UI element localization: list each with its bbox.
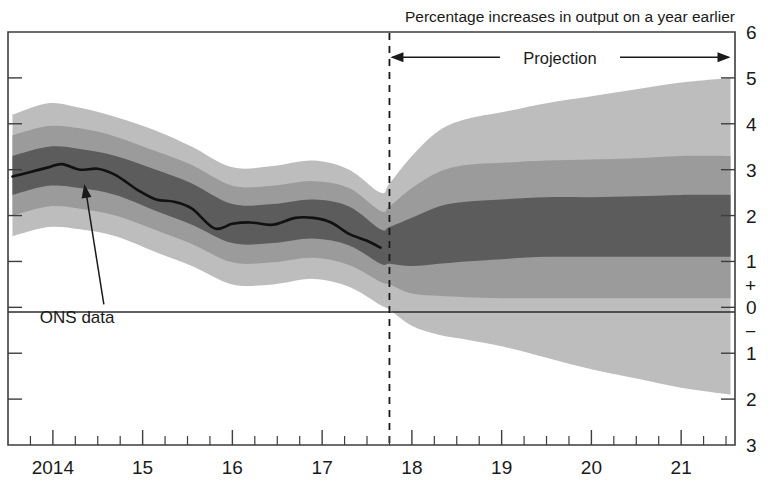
y-axis-label-6: 6 xyxy=(746,22,757,43)
chart-title: Percentage increases in output on a year… xyxy=(405,8,735,25)
y-axis-label-5: 5 xyxy=(746,68,757,89)
x-axis-tick-labels: 201415161718192021 xyxy=(32,457,692,478)
x-axis-label-17: 17 xyxy=(312,457,333,478)
fan-chart-container: Percentage increases in output on a year… xyxy=(0,0,778,483)
positive-sign-label: + xyxy=(745,275,756,296)
x-axis-label-18: 18 xyxy=(401,457,422,478)
x-axis-label-21: 21 xyxy=(671,457,692,478)
y-axis-label-0: 0 xyxy=(746,297,757,318)
y-axis-label-4: 4 xyxy=(746,114,757,135)
x-axis-label-16: 16 xyxy=(222,457,243,478)
y-axis-label-2: 2 xyxy=(746,206,757,227)
x-axis-label-2014: 2014 xyxy=(32,457,75,478)
y-axis-tick-labels: 6543210123 xyxy=(746,22,757,456)
x-axis-label-20: 20 xyxy=(581,457,602,478)
y-axis-label-3: 3 xyxy=(746,435,757,456)
x-axis-label-19: 19 xyxy=(491,457,512,478)
y-axis-label-1: 1 xyxy=(746,251,757,272)
y-axis-label-1: 1 xyxy=(746,343,757,364)
projection-label: Projection xyxy=(523,49,596,67)
ons-data-label: ONS data xyxy=(40,308,115,327)
y-axis-label-2: 2 xyxy=(746,389,757,410)
fan-chart: Percentage increases in output on a year… xyxy=(0,0,778,483)
y-axis-label-3: 3 xyxy=(746,160,757,181)
x-axis-label-15: 15 xyxy=(132,457,153,478)
negative-sign-label: − xyxy=(745,321,756,342)
